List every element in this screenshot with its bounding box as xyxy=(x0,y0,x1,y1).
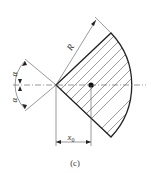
angle-label-upper: α xyxy=(9,71,19,76)
angle-extension-lower xyxy=(25,85,56,111)
x0-arrow-left xyxy=(56,140,61,144)
x0-arrow-right xyxy=(86,140,91,144)
radius-label: R xyxy=(64,42,76,53)
angle-arrow-upper-mid xyxy=(18,79,22,84)
radius-extension-line xyxy=(95,17,111,33)
x0-label: x0 xyxy=(67,132,75,143)
radius-arrow xyxy=(91,20,96,26)
sector-diagram: α α R x0 (c) xyxy=(0,0,151,173)
angle-label-lower: α xyxy=(9,97,19,102)
angle-extension-upper xyxy=(25,59,56,85)
angle-arrow-lower-mid xyxy=(18,86,22,91)
figure-caption: (c) xyxy=(70,158,80,168)
